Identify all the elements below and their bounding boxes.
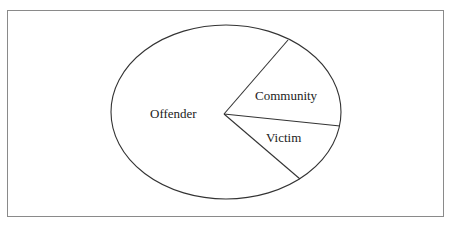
slice-label-victim: Victim <box>266 130 301 145</box>
slice-label-community: Community <box>255 88 318 103</box>
slice-label-offender: Offender <box>150 106 197 121</box>
pie-chart: Offender Community Victim <box>0 0 452 225</box>
